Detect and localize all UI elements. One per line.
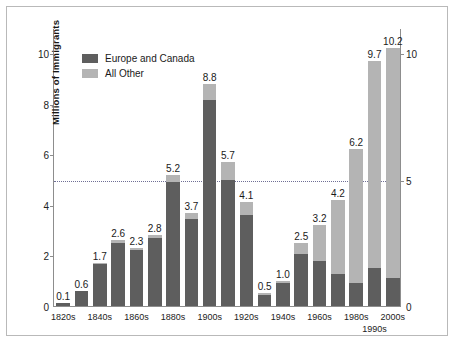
- bar-value-label: 2.3: [129, 236, 143, 247]
- bar-1860s: 2.3: [130, 248, 144, 306]
- y-tick-left: 6: [43, 150, 49, 161]
- bar-segment-europe-canada: [276, 283, 290, 306]
- bar-value-label: 3.7: [184, 201, 198, 212]
- bar-segment-europe-canada: [93, 264, 107, 306]
- bar-1850s: 2.6: [111, 240, 125, 306]
- bar-value-label: 5.7: [221, 150, 235, 161]
- bar-segment-europe-canada: [240, 215, 254, 306]
- bar-value-label: 9.7: [368, 49, 382, 60]
- y-tick-right: 0: [406, 302, 412, 313]
- all-other-swatch: [82, 69, 98, 78]
- bar-value-label: 0.1: [56, 291, 70, 302]
- y-tick-mark: [50, 206, 54, 207]
- legend-label: Europe and Canada: [105, 53, 195, 64]
- x-tick-label-1940s: 1940s: [271, 312, 296, 322]
- bar-value-label: 2.5: [294, 231, 308, 242]
- x-tick-label-1840s: 1840s: [88, 312, 113, 322]
- bar-1930s: 0.5: [258, 293, 272, 306]
- bar-segment-europe-canada: [349, 283, 363, 306]
- y-tick-mark: [50, 256, 54, 257]
- y-tick-mark: [50, 54, 54, 55]
- bar-value-label: 4.1: [239, 190, 253, 201]
- y-tick-mark-right: [400, 54, 404, 55]
- bar-segment-all-other: [166, 175, 180, 183]
- bar-value-label: 5.2: [166, 163, 180, 174]
- bar-value-label: 8.8: [203, 72, 217, 83]
- y-axis-title: Millions of Immigrants: [50, 0, 61, 125]
- bar-1920s: 4.1: [240, 202, 254, 306]
- bar-1820s: 0.1: [56, 303, 70, 306]
- bar-1970s: 4.2: [331, 200, 345, 306]
- bar-1980s: 6.2: [349, 149, 363, 306]
- bar-segment-europe-canada: [221, 180, 235, 306]
- bar-value-label: 6.2: [349, 137, 363, 148]
- legend: Europe and Canada All Other: [82, 53, 195, 83]
- legend-item-europe-canada: Europe and Canada: [82, 53, 195, 64]
- bar-segment-all-other: [240, 202, 254, 215]
- bar-segment-all-other: [294, 243, 308, 254]
- bar-1910s: 5.7: [221, 162, 235, 306]
- bar-segment-europe-canada: [203, 100, 217, 306]
- bar-segment-europe-canada: [331, 274, 345, 306]
- y-tick-mark: [50, 105, 54, 106]
- x-tick-label-1980s: 1980s: [344, 312, 369, 322]
- x-tick-label-1860s: 1860s: [124, 312, 149, 322]
- bar-1950s: 2.5: [294, 243, 308, 306]
- y-tick-right: 5: [406, 175, 412, 186]
- bar-segment-europe-canada: [368, 268, 382, 306]
- x-tick-label-1960s: 1960s: [307, 312, 332, 322]
- bar-segment-europe-canada: [258, 295, 272, 306]
- bar-segment-europe-canada: [56, 303, 70, 306]
- bar-value-label: 0.5: [258, 281, 272, 292]
- bar-1890s: 3.7: [185, 213, 199, 307]
- bar-value-label: 1.7: [93, 251, 107, 262]
- x-tick-label-1820s: 1820s: [51, 312, 76, 322]
- bar-segment-all-other: [368, 61, 382, 268]
- y-tick-mark: [50, 155, 54, 156]
- bar-segment-all-other: [221, 162, 235, 180]
- bar-segment-europe-canada: [75, 291, 89, 306]
- europe-canada-swatch: [82, 54, 98, 63]
- bar-segment-europe-canada: [148, 238, 162, 306]
- y-tick-mark-right: [400, 181, 404, 182]
- legend-label: All Other: [105, 68, 144, 79]
- bar-1900s: 8.8: [203, 84, 217, 306]
- bar-segment-europe-canada: [185, 219, 199, 306]
- bar-1960s: 3.2: [313, 225, 327, 306]
- bar-1840s: 1.7: [93, 263, 107, 306]
- bar-segment-europe-canada: [130, 250, 144, 306]
- bar-1830s: 0.6: [75, 291, 89, 306]
- bar-segment-all-other: [331, 200, 345, 275]
- bar-segment-europe-canada: [386, 278, 400, 306]
- x-tick-label-1990s: 1990s: [362, 324, 387, 334]
- y-tick-left: 0: [43, 302, 49, 313]
- bar-value-label: 3.2: [313, 213, 327, 224]
- bar-segment-europe-canada: [111, 243, 125, 306]
- bar-segment-europe-canada: [313, 261, 327, 306]
- y-tick-left: 4: [43, 200, 49, 211]
- bar-1990s: 9.7: [368, 61, 382, 306]
- bar-segment-all-other: [386, 48, 400, 278]
- bar-segment-all-other: [313, 225, 327, 260]
- bar-2000s: 10.2: [386, 48, 400, 306]
- chart-frame: Millions of Immigrants 0 2 4 6 8 10 0 5 …: [6, 6, 448, 336]
- bar-value-label: 0.6: [75, 279, 89, 290]
- bar-1880s: 5.2: [166, 175, 180, 306]
- x-tick-label-2000s: 2000s: [381, 312, 406, 322]
- bar-segment-europe-canada: [166, 182, 180, 306]
- y-tick-right: 10: [406, 49, 417, 60]
- legend-item-all-other: All Other: [82, 68, 195, 79]
- bar-value-label: 4.2: [331, 188, 345, 199]
- plot-area: Millions of Immigrants 0 2 4 6 8 10 0 5 …: [53, 29, 401, 307]
- x-tick-label-1880s: 1880s: [161, 312, 186, 322]
- bar-value-label: 1.0: [276, 269, 290, 280]
- y-tick-left: 8: [43, 99, 49, 110]
- y-tick-left: 2: [43, 251, 49, 262]
- bar-value-label: 10.2: [383, 36, 402, 47]
- bar-segment-all-other: [349, 149, 363, 283]
- bar-segment-europe-canada: [294, 254, 308, 306]
- y-tick-left: 10: [38, 49, 49, 60]
- x-tick-label-1900s: 1900s: [197, 312, 222, 322]
- x-tick-label-1920s: 1920s: [234, 312, 259, 322]
- bar-segment-all-other: [203, 84, 217, 100]
